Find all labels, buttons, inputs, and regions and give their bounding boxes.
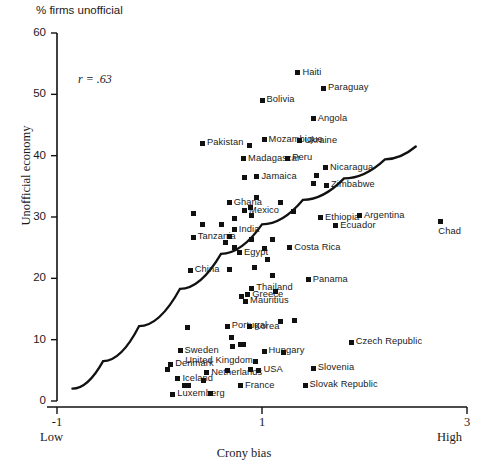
data-point[interactable] <box>185 325 190 330</box>
data-point[interactable] <box>254 195 259 200</box>
data-point-mauritius[interactable] <box>243 299 248 304</box>
data-point[interactable] <box>191 211 196 216</box>
data-point[interactable] <box>248 205 253 210</box>
data-point[interactable] <box>262 246 267 251</box>
data-point-chad[interactable] <box>438 219 443 224</box>
data-point[interactable] <box>249 237 254 242</box>
data-point-portugal[interactable] <box>225 324 230 329</box>
data-point-united-kingdom[interactable] <box>253 359 258 364</box>
data-point[interactable] <box>225 368 230 373</box>
data-point[interactable] <box>270 273 275 278</box>
data-point[interactable] <box>242 175 247 180</box>
data-point-label: Angola <box>318 113 348 123</box>
data-point[interactable] <box>227 234 232 239</box>
data-point-label: Korea <box>254 321 279 331</box>
data-point[interactable] <box>247 143 252 148</box>
data-point-sweden[interactable] <box>178 348 183 353</box>
plot-axes-and-fit <box>0 0 488 472</box>
x-axis-ticks <box>57 407 467 414</box>
data-point-slovak-republic[interactable] <box>303 383 308 388</box>
data-point-paraguay[interactable] <box>321 86 326 91</box>
data-point-label: Pakistan <box>207 137 243 147</box>
data-point[interactable] <box>232 245 237 250</box>
data-point-label: India <box>239 224 260 234</box>
data-point-label: Sweden <box>185 345 219 355</box>
x-tick-label: 1 <box>247 415 277 430</box>
data-point-label: Peru <box>292 152 312 162</box>
data-point-jamaica[interactable] <box>254 174 259 179</box>
data-point-ethiopia[interactable] <box>318 215 323 220</box>
data-point-haiti[interactable] <box>295 70 300 75</box>
data-point[interactable] <box>229 335 234 340</box>
data-point-label: Mauritius <box>250 295 289 305</box>
data-point-peru[interactable] <box>285 156 290 161</box>
data-point-bolivia[interactable] <box>260 98 265 103</box>
data-point-mexico[interactable] <box>242 208 247 213</box>
data-point[interactable] <box>291 209 296 214</box>
data-point-iceland[interactable] <box>175 376 180 381</box>
data-point-label: USA <box>263 364 282 374</box>
y-tick-label: 20 <box>20 271 46 283</box>
data-point-tanzania[interactable] <box>191 235 196 240</box>
data-point[interactable] <box>201 378 206 383</box>
data-point[interactable] <box>219 222 224 227</box>
data-point[interactable] <box>208 391 213 396</box>
data-point-madagascar[interactable] <box>241 156 246 161</box>
data-point[interactable] <box>314 173 319 178</box>
data-point[interactable] <box>273 289 278 294</box>
data-point-nicaragua[interactable] <box>323 165 328 170</box>
y-tick-label: 60 <box>20 26 46 38</box>
y-tick-label: 30 <box>20 210 46 222</box>
data-point-mozambique[interactable] <box>262 137 267 142</box>
data-point-ghana[interactable] <box>227 200 232 205</box>
data-point-label: Slovak Republic <box>310 379 378 389</box>
data-point[interactable] <box>241 342 246 347</box>
data-point[interactable] <box>252 265 257 270</box>
data-point-label: Zimbabwe <box>331 179 375 189</box>
x-tick-label: -1 <box>42 415 72 430</box>
data-point-luxemberg[interactable] <box>170 392 175 397</box>
data-point-slovenia[interactable] <box>311 366 316 371</box>
data-point-argentina[interactable] <box>357 213 362 218</box>
data-point-china[interactable] <box>188 268 193 273</box>
data-point-costa-rica[interactable] <box>287 245 292 250</box>
data-point-hungary[interactable] <box>262 349 267 354</box>
data-point-pakistan[interactable] <box>200 141 205 146</box>
data-point-label: Bolivia <box>267 94 295 104</box>
y-axis-ticks <box>51 33 57 401</box>
data-point[interactable] <box>227 267 232 272</box>
data-point-label: Chad <box>438 226 461 236</box>
data-point-angola[interactable] <box>311 116 316 121</box>
data-point-label: Nicaragua <box>330 162 373 172</box>
data-point-label: China <box>195 264 220 274</box>
data-point-ukraine[interactable] <box>297 138 302 143</box>
data-point[interactable] <box>249 213 254 218</box>
data-point[interactable] <box>200 222 205 227</box>
data-point-czech-republic[interactable] <box>349 340 354 345</box>
data-point-panama[interactable] <box>306 277 311 282</box>
data-point-label: Haiti <box>302 67 321 77</box>
data-point[interactable] <box>311 181 316 186</box>
data-point-label: Ecuador <box>340 220 375 230</box>
data-point[interactable] <box>232 216 237 221</box>
data-point-korea[interactable] <box>247 324 252 329</box>
x-tick-label: 3 <box>452 415 482 430</box>
data-point[interactable] <box>165 367 170 372</box>
y-tick-label: 10 <box>20 333 46 345</box>
data-point[interactable] <box>292 318 297 323</box>
data-point-label: Czech Republic <box>356 336 423 346</box>
data-point-zimbabwe[interactable] <box>324 183 329 188</box>
data-point[interactable] <box>223 240 228 245</box>
y-tick-label: 50 <box>20 87 46 99</box>
data-point[interactable] <box>270 237 275 242</box>
data-point-label: Iceland <box>182 373 213 383</box>
data-point-label: Luxemberg <box>177 388 224 398</box>
data-point[interactable] <box>278 200 283 205</box>
data-point-egypt[interactable] <box>237 250 242 255</box>
y-tick-label: 0 <box>20 394 46 406</box>
data-point[interactable] <box>265 257 270 262</box>
data-point-ecuador[interactable] <box>333 223 338 228</box>
data-point[interactable] <box>281 350 286 355</box>
data-point[interactable] <box>230 344 235 349</box>
data-point-france[interactable] <box>238 383 243 388</box>
